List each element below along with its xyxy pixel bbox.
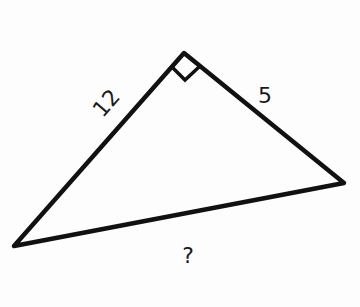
leg-right-label: 5 bbox=[258, 83, 272, 108]
triangle-outline bbox=[14, 53, 344, 246]
leg-left-label: 12 bbox=[88, 84, 125, 122]
hypotenuse-label: ? bbox=[182, 243, 194, 268]
triangle-diagram: 12 5 ? bbox=[0, 0, 360, 307]
diagram-svg: 12 5 ? bbox=[0, 0, 360, 307]
right-angle-marker bbox=[172, 67, 199, 80]
